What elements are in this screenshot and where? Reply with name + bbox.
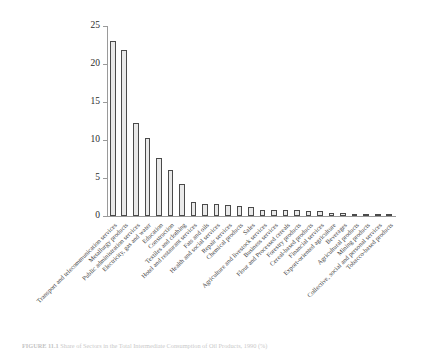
bar — [121, 50, 127, 216]
figure-caption-text: Share of Sectors in the Total Intermedia… — [60, 343, 267, 349]
category-axis-label: Agriculture and livestock services — [122, 222, 268, 356]
category-axis-label: Construction — [30, 222, 176, 356]
value-axis-tick-mark — [103, 26, 108, 27]
bar — [191, 202, 197, 216]
bar — [386, 214, 392, 216]
category-axis-label: Public administration services — [0, 222, 141, 356]
value-axis-tick-mark — [103, 64, 108, 65]
category-axis-label: Business services — [133, 222, 279, 356]
category-axis-label: Electricity, gas and water — [7, 222, 153, 356]
category-axis-label: Sales — [110, 222, 256, 356]
bar-series — [107, 26, 395, 216]
bar — [202, 204, 208, 216]
bar — [133, 123, 139, 216]
category-axis-label: Agricultural products — [214, 222, 360, 356]
bar — [145, 138, 151, 216]
bar — [340, 213, 346, 216]
category-axis-label: Chemical products — [99, 222, 245, 356]
bar — [294, 210, 300, 216]
bar — [306, 211, 312, 216]
category-axis-label: Metallurgy products — [0, 222, 130, 356]
bar — [168, 170, 174, 216]
figure-container: 0510152025 Transport and telecommunicati… — [0, 0, 442, 356]
bar — [283, 210, 289, 216]
value-axis-tick-label: 20 — [91, 59, 101, 69]
figure-caption-label: FIGURE 11.1 — [22, 343, 59, 349]
category-axis-line — [107, 216, 396, 217]
value-axis-tick-labels: 0510152025 — [82, 0, 100, 356]
category-axis-label: Textiles and clothing — [41, 222, 187, 356]
category-axis-label: Repair services — [87, 222, 233, 356]
value-axis-tick-mark — [103, 216, 108, 217]
category-axis-label: Cereal-based products — [168, 222, 314, 356]
category-axis-label: Tobacco-based products — [249, 222, 395, 356]
value-axis-tick-label: 10 — [91, 135, 101, 145]
bar — [248, 207, 254, 217]
bar — [260, 210, 266, 216]
bar — [352, 214, 358, 216]
value-axis-tick-mark — [103, 102, 108, 103]
bar — [110, 41, 116, 216]
value-axis-tick-label: 0 — [95, 211, 100, 221]
bar — [317, 211, 323, 216]
value-axis-tick-label: 25 — [91, 21, 101, 31]
category-axis-label: Collective, social and personal services — [237, 222, 383, 356]
category-axis-label: Beverages — [202, 222, 348, 356]
category-axis-label: Financial services — [179, 222, 325, 356]
bar — [225, 205, 231, 216]
category-axis-label: Flour and Processed cereals — [145, 222, 291, 356]
value-axis-tick-label: 5 — [95, 173, 100, 183]
bar — [329, 213, 335, 216]
category-axis-label: Export-oriented agriculture — [191, 222, 337, 356]
bar — [271, 210, 277, 216]
value-axis-tick-mark — [103, 140, 108, 141]
bar — [156, 158, 162, 216]
figure-caption: FIGURE 11.1 Share of Sectors in the Tota… — [22, 343, 434, 350]
bar — [237, 206, 243, 216]
category-axis-label: Hotel and restaurant services — [53, 222, 199, 356]
bar — [375, 214, 381, 216]
category-axis-label: Mining products — [226, 222, 372, 356]
category-axis-label: Forestry products — [156, 222, 302, 356]
bar — [214, 204, 220, 216]
bar — [363, 214, 369, 216]
value-axis-tick-mark — [103, 178, 108, 179]
bar — [179, 184, 185, 216]
value-axis-tick-label: 15 — [91, 97, 101, 107]
category-axis-label: Transport and telecommunication services — [0, 222, 118, 356]
